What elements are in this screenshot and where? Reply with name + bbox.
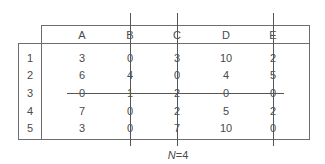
row-label-3: 3 bbox=[20, 87, 40, 99]
table-cell: 3 bbox=[62, 122, 102, 134]
column-c-marker-line bbox=[177, 13, 178, 146]
header-bottom-border bbox=[18, 43, 310, 44]
column-e-marker-line bbox=[273, 13, 274, 146]
table-cell: 7 bbox=[62, 105, 102, 117]
caption-value: 4 bbox=[182, 149, 188, 161]
table-cell: 3 bbox=[62, 52, 102, 64]
row-label-2: 2 bbox=[20, 69, 40, 81]
table-bottom-border bbox=[18, 139, 310, 140]
grid-diagram: A B C D E 1 3 0 3 10 2 2 6 4 0 4 5 3 0 1… bbox=[0, 0, 325, 164]
table-cell: 10 bbox=[206, 52, 246, 64]
row-3-strike-line bbox=[67, 93, 284, 94]
column-b-marker-line bbox=[130, 13, 131, 146]
table-cell: 10 bbox=[206, 122, 246, 134]
column-header-d: D bbox=[206, 29, 246, 41]
caption-variable: N bbox=[168, 149, 176, 161]
table-right-border bbox=[309, 25, 310, 140]
sample-size-caption: N=4 bbox=[160, 149, 196, 161]
table-cell: 4 bbox=[206, 69, 246, 81]
row-label-4: 4 bbox=[20, 105, 40, 117]
table-left-border bbox=[18, 43, 19, 140]
table-cell: 5 bbox=[206, 105, 246, 117]
row-label-divider bbox=[41, 25, 42, 140]
table-top-border bbox=[41, 25, 310, 26]
table-cell: 6 bbox=[62, 69, 102, 81]
column-header-a: A bbox=[62, 29, 102, 41]
row-label-1: 1 bbox=[20, 52, 40, 64]
row-label-5: 5 bbox=[20, 122, 40, 134]
